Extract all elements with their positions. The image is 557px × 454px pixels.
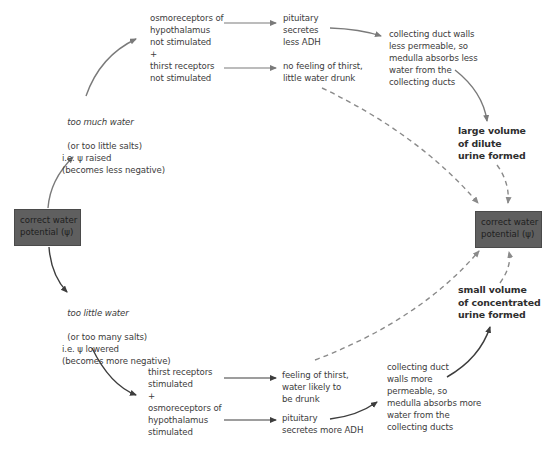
too-little-water-details: (or too many salts) i.e. ψ lowered (beco… bbox=[62, 332, 171, 366]
arrow-trigger-to-receptors-upper bbox=[86, 39, 136, 96]
too-little-water-title: too little water bbox=[67, 308, 128, 318]
too-much-water-details: (or too little salts) i.e. ψ raised (bec… bbox=[62, 141, 165, 175]
large-volume-dilute-urine-text: large volume of dilute urine formed bbox=[458, 125, 526, 163]
correct-water-potential-box-left: correct water potential (ψ) bbox=[14, 209, 81, 246]
feeling-of-thirst-text: feeling of thirst, water likely to be dr… bbox=[282, 369, 349, 405]
pituitary-less-adh-text: pituitary secretes less ADH bbox=[283, 12, 321, 48]
dashed-small-volume-to-box bbox=[500, 252, 510, 283]
dashed-no-thirst-to-box bbox=[322, 88, 478, 203]
pituitary-more-adh-text: pituitary secretes more ADH bbox=[282, 412, 363, 436]
correct-water-potential-box-right: correct water potential (ψ) bbox=[475, 211, 542, 248]
small-volume-concentrated-urine-text: small volume of concentrated urine forme… bbox=[458, 284, 541, 322]
receptors-not-stimulated-text: osmoreceptors of hypothalamus not stimul… bbox=[150, 12, 224, 84]
too-little-water-block: too little water (or too many salts) i.e… bbox=[62, 295, 171, 367]
dashed-large-volume-to-box bbox=[497, 165, 508, 203]
dashed-thirst-to-box bbox=[315, 251, 479, 360]
duct-more-permeable-text: collecting duct walls more permeable, so… bbox=[387, 361, 481, 433]
too-much-water-block: too much water (or too little salts) i.e… bbox=[62, 104, 165, 176]
too-much-water-title: too much water bbox=[67, 117, 133, 127]
no-thirst-text: no feeling of thirst, little water drunk bbox=[283, 60, 363, 84]
receptors-stimulated-text: thirst receptors stimulated + osmorecept… bbox=[148, 366, 222, 438]
arrow-box-to-too-little-water bbox=[49, 247, 67, 292]
duct-less-permeable-text: collecting duct walls less permeable, so… bbox=[389, 28, 478, 88]
arrow-pituitary-to-duct-upper bbox=[330, 28, 381, 36]
